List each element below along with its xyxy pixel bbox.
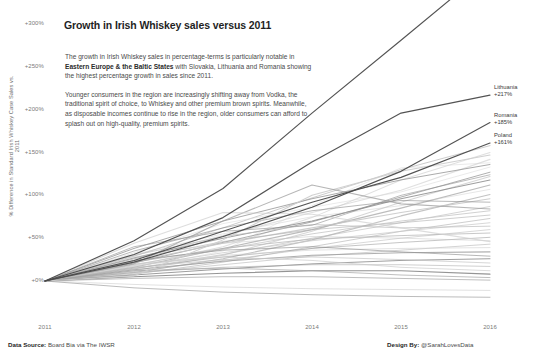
series-label-romania: Romania+185% xyxy=(494,112,517,126)
series-label-name: Lithuania xyxy=(494,84,518,91)
chart-line xyxy=(45,281,490,290)
chart-figure: +0%+50%+100%+150%+200%+250%+300% % Diffe… xyxy=(0,0,535,363)
design-by: Design By: @SarahLovesData xyxy=(387,341,473,348)
series-label-value: +185% xyxy=(494,119,517,126)
footer: Data Source: Board Bia via The IWSR Desi… xyxy=(0,341,535,355)
x-tick-label: 2014 xyxy=(305,324,319,330)
x-tick-label: 2012 xyxy=(127,324,141,330)
data-source: Data Source: Board Bia via The IWSR xyxy=(8,341,115,348)
data-source-value: Board Bia via The IWSR xyxy=(46,341,115,348)
x-tick-label: 2013 xyxy=(216,324,230,330)
x-tick-label: 2011 xyxy=(38,324,51,330)
x-tick-label: 2015 xyxy=(394,324,408,330)
series-label-value: +161% xyxy=(494,139,512,146)
series-label-poland: Poland+161% xyxy=(494,132,512,146)
annotation-paragraph-1: The growth in Irish Whiskey sales in per… xyxy=(65,52,315,81)
x-axis: 201120122013201420152016 xyxy=(0,324,535,336)
annotation-text: The growth in Irish Whiskey sales in per… xyxy=(65,52,315,137)
design-by-value: @SarahLovesData xyxy=(419,341,473,348)
series-label-lithuania: Lithuania+217% xyxy=(494,84,518,98)
x-tick-label: 2016 xyxy=(483,324,497,330)
design-by-label: Design By: xyxy=(387,341,419,348)
data-source-label: Data Source: xyxy=(8,341,46,348)
page-title: Growth in Irish Whiskey sales versus 201… xyxy=(64,19,271,31)
annotation-paragraph-2: Younger consumers in the region are incr… xyxy=(65,90,315,128)
series-label-value: +217% xyxy=(494,91,518,98)
series-label-name: Poland xyxy=(494,132,512,139)
series-label-name: Romania xyxy=(494,112,517,119)
